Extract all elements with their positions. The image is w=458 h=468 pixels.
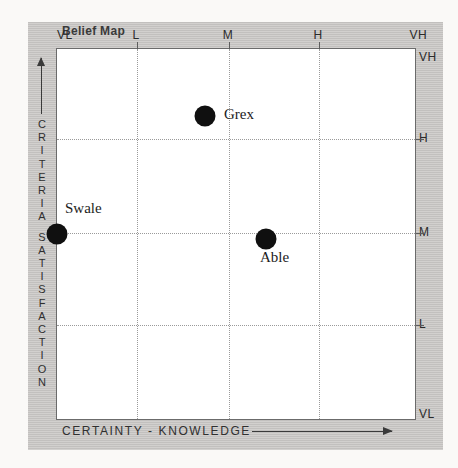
y-caption-letter: F	[33, 297, 51, 310]
tick-mark-y-h	[416, 139, 424, 140]
x-tick-label-h: H	[313, 28, 322, 42]
y-caption-letter: C	[33, 118, 51, 131]
data-point-label-swale: Swale	[65, 200, 102, 217]
tick-mark-x-m	[229, 42, 230, 49]
x-axis-arrow-icon	[252, 431, 392, 432]
x-tick-label-vl: VL	[57, 28, 72, 42]
y-caption-letter: I	[33, 197, 51, 210]
y-caption-letter: A	[33, 244, 51, 257]
y-caption-letter: E	[33, 171, 51, 184]
gridline-vertical-l	[137, 49, 138, 419]
data-point-label-grex: Grex	[224, 106, 254, 123]
y-caption-letter: S	[33, 283, 51, 296]
x-axis-caption: CERTAINTY - KNOWLEDGE	[62, 424, 251, 438]
tick-mark-y-l	[416, 325, 424, 326]
data-point-able[interactable]	[256, 229, 277, 250]
y-caption-letter: I	[33, 144, 51, 157]
y-caption-letter: A	[33, 310, 51, 323]
y-caption-letter: T	[33, 158, 51, 171]
tick-mark-x-l	[137, 42, 138, 49]
y-tick-label-h: H	[419, 131, 428, 145]
y-tick-label-l: L	[419, 317, 426, 331]
y-tick-label-m: M	[419, 225, 429, 239]
y-axis-arrow-icon	[41, 58, 42, 114]
y-caption-letter: A	[33, 210, 51, 223]
x-tick-label-m: M	[223, 28, 233, 42]
gridline-horizontal-h	[57, 139, 415, 140]
belief-map-chart: Belief Map C R I T E R I A S A T I S F A…	[0, 0, 458, 468]
plot-area: Grex Swale Able	[56, 48, 416, 420]
y-caption-letter: C	[33, 323, 51, 336]
y-caption-letter: I	[33, 349, 51, 362]
y-tick-label-vl: VL	[419, 407, 434, 421]
tick-mark-x-h	[319, 42, 320, 49]
x-tick-label-vh: VH	[410, 28, 427, 42]
gridline-horizontal-l	[57, 325, 415, 326]
gridline-vertical-h	[319, 49, 320, 419]
data-point-grex[interactable]	[195, 106, 216, 127]
gridline-vertical-m	[229, 49, 230, 419]
y-caption-letter: T	[33, 336, 51, 349]
y-caption-letter: R	[33, 184, 51, 197]
y-caption-letter: N	[33, 376, 51, 389]
y-caption-letter: R	[33, 131, 51, 144]
y-caption-letter: O	[33, 363, 51, 376]
y-caption-letter: I	[33, 270, 51, 283]
y-tick-label-vh: VH	[419, 50, 436, 64]
data-point-swale[interactable]	[47, 224, 68, 245]
y-caption-letter: T	[33, 257, 51, 270]
y-axis-caption: C R I T E R I A S A T I S F A C T I O N	[33, 118, 51, 389]
tick-mark-y-m	[416, 233, 424, 234]
data-point-label-able: Able	[260, 249, 289, 266]
x-tick-label-l: L	[132, 28, 139, 42]
gridline-horizontal-m	[57, 233, 415, 234]
